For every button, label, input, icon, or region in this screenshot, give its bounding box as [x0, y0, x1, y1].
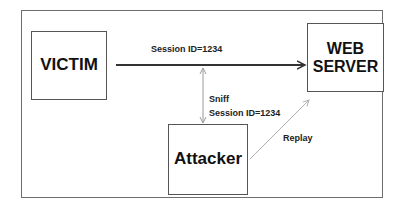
sniff-label: Sniff Session ID=1234 [209, 92, 280, 120]
web-server-node: WEB SERVER [307, 23, 384, 92]
attacker-node: Attacker [168, 124, 248, 195]
victim-label: VICTIM [40, 56, 98, 75]
session-hijack-diagram: VICTIM WEB SERVER Attacker Session ID=12… [0, 0, 406, 206]
web-server-label-line2: SERVER [313, 58, 379, 76]
session-id-label: Session ID=1234 [151, 44, 222, 54]
web-server-label-line1: WEB [327, 40, 364, 58]
replay-label: Replay [283, 133, 313, 143]
sniff-label-line2: Session ID=1234 [209, 106, 280, 120]
victim-node: VICTIM [31, 31, 107, 100]
attacker-label: Attacker [174, 150, 242, 169]
sniff-label-line1: Sniff [209, 92, 280, 106]
